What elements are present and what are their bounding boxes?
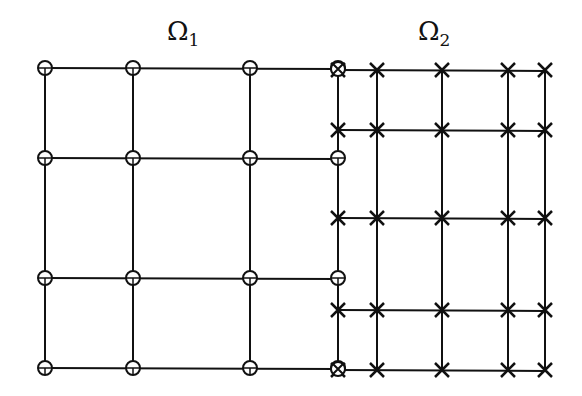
- domain-decomposition-diagram: [0, 0, 582, 396]
- grid1-horizontal-line: [45, 158, 338, 159]
- grid1-horizontal-line: [45, 68, 338, 69]
- grid1-horizontal-line: [45, 278, 338, 279]
- grid-omega-1-lines: [45, 68, 338, 369]
- grid-omega-2-lines: [338, 70, 545, 371]
- grid-omega-1-nodes: [38, 61, 345, 375]
- grid1-horizontal-line: [45, 368, 338, 369]
